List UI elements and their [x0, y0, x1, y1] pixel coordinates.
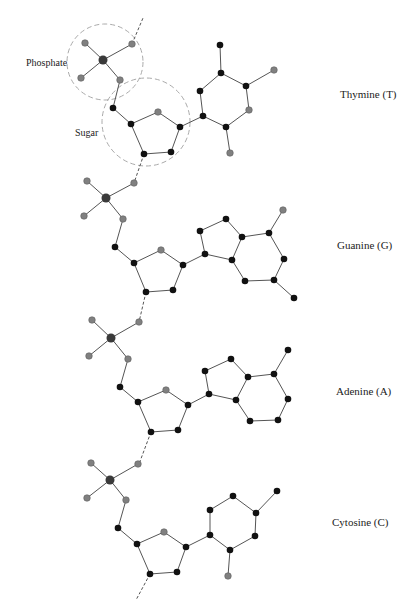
phosphorus-atom	[106, 476, 115, 485]
base-label-adenine: Adenine (A)	[336, 385, 391, 397]
phosphate-label: Phosphate	[26, 57, 67, 68]
phosphorus-atom	[102, 194, 111, 203]
phosphorus-atom	[99, 56, 108, 65]
nucleotide-adenine	[86, 317, 292, 436]
nucleotide-thymine	[78, 40, 278, 158]
nucleotide-cytosine	[84, 460, 281, 580]
sugar-label: Sugar	[75, 127, 98, 138]
phosphorus-atom	[107, 334, 116, 343]
dna-diagram: Phosphate Sugar Thymine (T) Guanine (G) …	[0, 0, 419, 612]
base-label-cytosine: Cytosine (C)	[332, 516, 389, 528]
base-label-thymine: Thymine (T)	[340, 88, 397, 100]
base-label-guanine: Guanine (G)	[337, 239, 392, 251]
backbone-links	[132, 18, 151, 600]
nucleotide-guanine	[81, 178, 298, 302]
